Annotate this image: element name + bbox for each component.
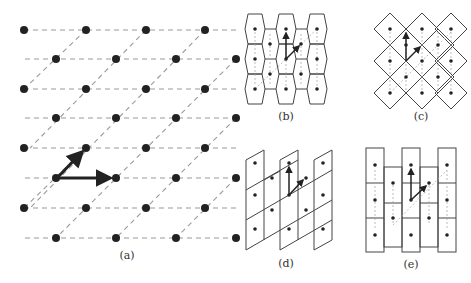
panel-e-label: (e) (403, 258, 418, 271)
panel-a-lattice (20, 26, 240, 242)
panel-b-hexagonal-cells (245, 14, 327, 104)
panel-e-rectangular-cells (366, 148, 456, 252)
panel-d-parallelogram-cells (246, 150, 332, 250)
panel-b-label: (b) (278, 110, 294, 123)
basis-vector-a2 (57, 152, 82, 178)
panel-a-label: (a) (119, 249, 134, 262)
panel-c-label: (c) (414, 110, 429, 123)
lattice-figure (0, 0, 471, 283)
panel-d-label: (d) (278, 257, 294, 270)
panel-c-diamond-cells (374, 13, 467, 109)
lattice-points (20, 26, 240, 242)
basis-vector-arrows (57, 152, 110, 178)
vector-diag (286, 46, 299, 59)
